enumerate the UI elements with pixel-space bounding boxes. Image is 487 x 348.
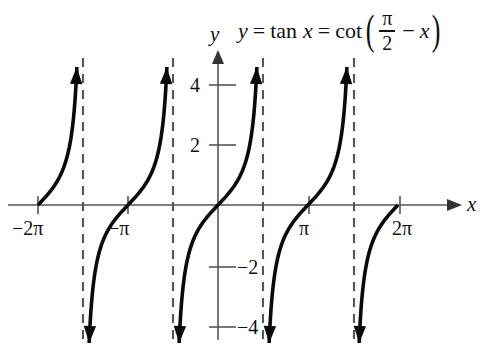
x-axis-arrowhead	[447, 199, 462, 211]
x-tick-label-2pi: 2π	[392, 218, 412, 238]
tangent-branch	[38, 67, 77, 205]
y-tick-label-4: 4	[190, 75, 200, 95]
fraction-numerator: π	[379, 8, 395, 29]
equation-tan-arg: x	[303, 20, 313, 42]
branch-arrowhead	[174, 326, 186, 343]
y-tick-label--4: −4	[237, 317, 258, 337]
branch-arrowhead	[354, 326, 366, 343]
branch-arrowhead	[84, 326, 96, 343]
y-tick-label-2: 2	[190, 135, 200, 155]
tangent-function-figure: −2π −π π 2π 4 2 −2 −4 x y y = tan x = co…	[0, 0, 487, 348]
x-tick-label-pi: π	[299, 218, 309, 238]
y-tick-label--2: −2	[237, 257, 258, 277]
equation-fraction: π 2	[379, 8, 395, 54]
equation-equals-1: =	[253, 20, 265, 42]
branch-arrowhead	[70, 67, 82, 84]
y-axis-arrowhead	[212, 50, 224, 64]
y-axis-label: y	[210, 24, 219, 45]
equation-tan: tan	[270, 20, 297, 42]
equation-minus: −	[402, 20, 414, 42]
equation-title: y = tan x = cot ( π 2 − x )	[238, 8, 443, 54]
fraction-denominator: 2	[379, 33, 395, 54]
branch-arrowhead	[340, 67, 352, 84]
branch-arrowhead	[250, 67, 262, 84]
equation-cot: cot	[335, 20, 362, 42]
equation-equals-2: =	[318, 20, 330, 42]
x-tick-label--2pi: −2π	[12, 218, 43, 238]
equation-lhs: y	[238, 20, 248, 42]
x-axis-label: x	[467, 194, 476, 215]
x-tick-label--pi: −π	[108, 218, 129, 238]
branch-arrowhead	[264, 326, 276, 343]
equation-cot-arg: x	[420, 20, 430, 42]
equation-paren-close: )	[432, 12, 441, 50]
equation-paren-open: (	[366, 12, 375, 50]
branch-arrowhead	[160, 67, 172, 84]
